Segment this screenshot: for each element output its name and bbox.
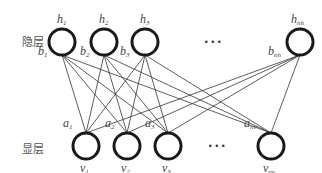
hidden-node-h2: h2 b2 <box>80 12 117 59</box>
svg-text:a1: a1 <box>63 116 73 131</box>
svg-text:a3: a3 <box>145 116 155 131</box>
svg-text:a2: a2 <box>105 116 115 131</box>
visible-ellipsis: ··· <box>208 139 228 153</box>
hidden-node-hnh: hnh bnh <box>268 12 313 59</box>
connection-edge <box>127 55 300 133</box>
svg-text:v2: v2 <box>121 161 130 173</box>
connection-edges <box>62 55 300 133</box>
svg-text:anv: anv <box>244 116 258 131</box>
visible-layer-label: 显层 <box>22 143 44 156</box>
svg-text:hnh: hnh <box>291 12 305 27</box>
hidden-ellipsis: ··· <box>204 35 224 49</box>
visible-node-vnv: anv vnv <box>244 116 284 173</box>
hidden-node-h3: h3 b3 <box>120 12 158 59</box>
svg-text:b2: b2 <box>80 44 90 59</box>
svg-text:h2: h2 <box>99 12 109 27</box>
connection-edge <box>62 55 271 133</box>
svg-text:b1: b1 <box>38 44 48 59</box>
connection-edge <box>145 55 271 133</box>
svg-text:v1: v1 <box>80 161 89 173</box>
svg-text:bnh: bnh <box>268 44 282 59</box>
visible-node-v3: a3 v3 <box>145 116 181 173</box>
visible-node-v1: a1 v1 <box>63 116 99 173</box>
connection-edge <box>86 55 300 133</box>
svg-text:v3: v3 <box>162 161 171 173</box>
visible-node-v2: a2 v2 <box>105 116 140 173</box>
connection-edge <box>271 55 300 133</box>
svg-text:h3: h3 <box>140 12 150 27</box>
svg-text:h1: h1 <box>57 12 67 27</box>
svg-text:b3: b3 <box>120 44 130 59</box>
svg-text:vnv: vnv <box>263 161 276 173</box>
rbm-diagram: 隐层 显层 h1 b1 h2 b2 h3 b3 ··· hnh bnh a1 v… <box>0 0 322 173</box>
